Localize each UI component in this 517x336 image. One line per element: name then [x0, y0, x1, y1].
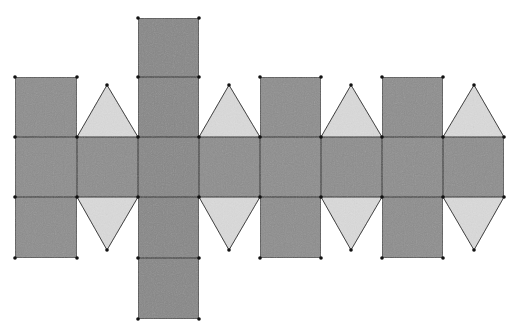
- vertex-dot: [380, 195, 384, 199]
- vertex-dot: [136, 75, 140, 79]
- upper-triangle-3: [321, 85, 382, 137]
- vertex-dot: [441, 256, 445, 260]
- lower-square-3: [260, 197, 321, 258]
- upper-triangle-4: [443, 85, 504, 137]
- vertex-dot: [197, 256, 201, 260]
- vertex-dot: [502, 135, 506, 139]
- vertex-dot: [319, 256, 323, 260]
- vertex-dot: [319, 195, 323, 199]
- lower-square-1: [15, 197, 77, 258]
- vertex-dot: [105, 248, 109, 252]
- vertex-dot: [227, 83, 231, 87]
- vertex-dot: [441, 195, 445, 199]
- strip-square-4: [199, 137, 260, 197]
- column-top-square: [138, 18, 199, 77]
- strip-square-7: [382, 137, 443, 197]
- column-upper-square: [138, 77, 199, 137]
- vertex-dot: [75, 195, 79, 199]
- vertex-dot: [136, 195, 140, 199]
- vertex-dot: [258, 75, 262, 79]
- polyhedron-net-diagram: [0, 0, 517, 336]
- vertex-dot: [13, 195, 17, 199]
- strip-square-1: [15, 137, 77, 197]
- vertex-dot: [258, 195, 262, 199]
- vertex-dot: [380, 75, 384, 79]
- lower-triangle-2: [199, 197, 260, 250]
- lower-triangle-4: [443, 197, 504, 250]
- strip-square-3: [138, 137, 199, 197]
- vertex-dot: [75, 256, 79, 260]
- vertex-dot: [136, 16, 140, 20]
- vertex-dot: [380, 256, 384, 260]
- vertex-dot: [75, 75, 79, 79]
- vertex-dot: [472, 83, 476, 87]
- vertex-dot: [136, 135, 140, 139]
- vertex-dot: [13, 135, 17, 139]
- vertex-dot: [349, 83, 353, 87]
- vertex-dot: [319, 75, 323, 79]
- vertex-dot: [105, 83, 109, 87]
- strip-square-6: [321, 137, 382, 197]
- vertex-dot: [197, 317, 201, 321]
- column-lower-square: [138, 197, 199, 258]
- vertex-dot: [319, 135, 323, 139]
- vertex-dot: [258, 256, 262, 260]
- lower-square-4: [382, 197, 443, 258]
- upper-square-3: [260, 77, 321, 137]
- vertex-dot: [380, 135, 384, 139]
- vertex-dot: [13, 75, 17, 79]
- upper-square-4: [382, 77, 443, 137]
- vertex-dot: [472, 248, 476, 252]
- lower-triangle-1: [77, 197, 138, 250]
- square-faces: [15, 18, 504, 319]
- vertex-dot: [258, 135, 262, 139]
- upper-square-1: [15, 77, 77, 137]
- vertex-dot: [441, 75, 445, 79]
- net-svg: [0, 0, 517, 336]
- vertex-dot: [227, 248, 231, 252]
- vertex-dot: [13, 256, 17, 260]
- vertex-dot: [136, 256, 140, 260]
- column-bottom-square: [138, 258, 199, 319]
- upper-triangle-1: [77, 85, 138, 137]
- vertex-dot: [441, 135, 445, 139]
- strip-square-2: [77, 137, 138, 197]
- upper-triangle-2: [199, 85, 260, 137]
- vertex-dot: [349, 248, 353, 252]
- strip-square-8: [443, 137, 504, 197]
- vertex-dot: [197, 75, 201, 79]
- strip-square-5: [260, 137, 321, 197]
- lower-triangle-3: [321, 197, 382, 250]
- vertex-dot: [75, 135, 79, 139]
- vertex-dot: [197, 195, 201, 199]
- vertex-dot: [197, 16, 201, 20]
- vertex-dot: [197, 135, 201, 139]
- vertex-dot: [136, 317, 140, 321]
- vertex-dot: [502, 195, 506, 199]
